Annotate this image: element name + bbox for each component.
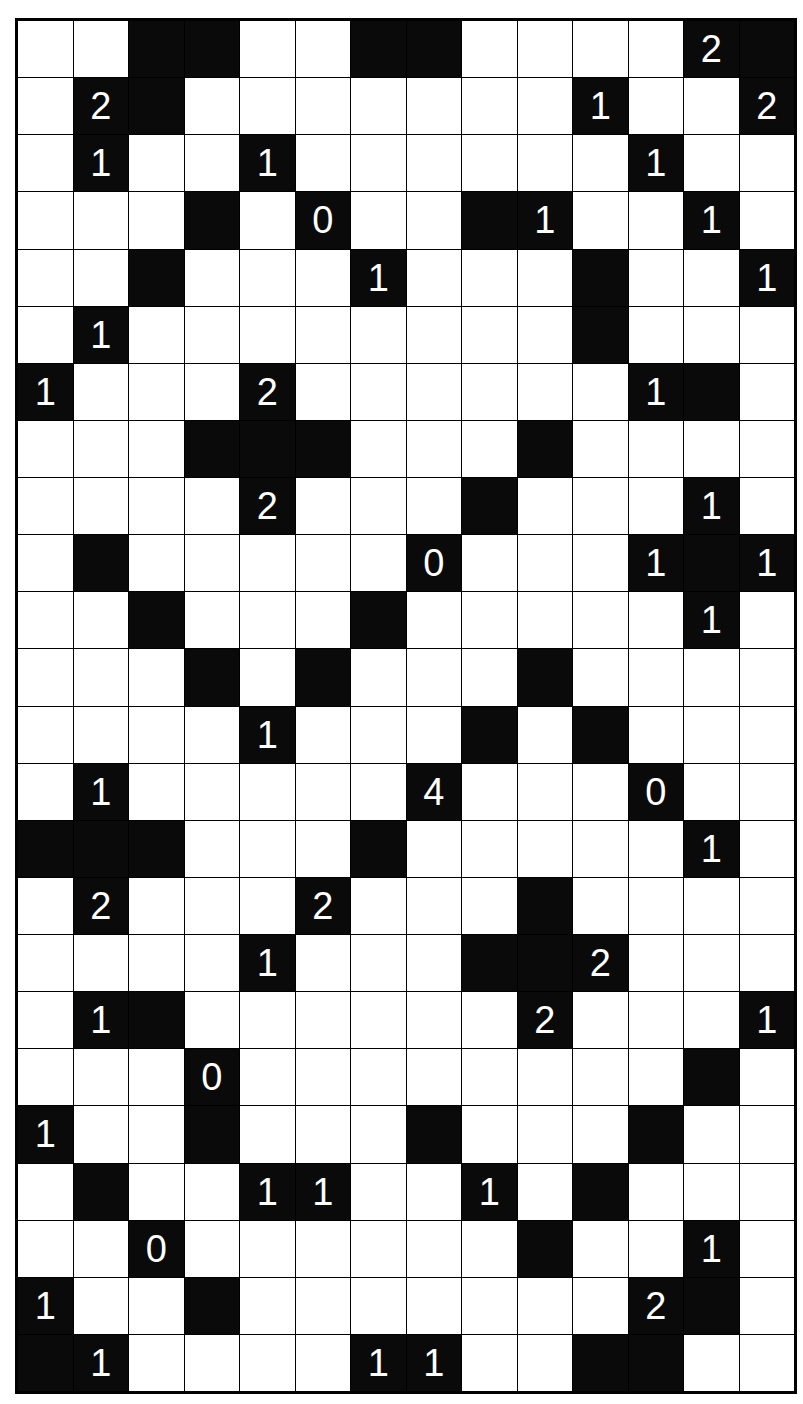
white-cell[interactable]: [18, 421, 73, 477]
white-cell[interactable]: [18, 21, 73, 77]
white-cell[interactable]: [185, 135, 240, 191]
white-cell[interactable]: [129, 707, 184, 763]
white-cell[interactable]: [351, 1221, 406, 1277]
white-cell[interactable]: [185, 307, 240, 363]
white-cell[interactable]: [129, 1278, 184, 1334]
white-cell[interactable]: [740, 935, 795, 991]
white-cell[interactable]: [407, 1221, 462, 1277]
white-cell[interactable]: [462, 592, 517, 648]
white-cell[interactable]: [740, 878, 795, 934]
white-cell[interactable]: [74, 592, 129, 648]
white-cell[interactable]: [684, 1106, 739, 1162]
white-cell[interactable]: [629, 707, 684, 763]
white-cell[interactable]: [240, 21, 295, 77]
white-cell[interactable]: [74, 707, 129, 763]
white-cell[interactable]: [129, 535, 184, 591]
white-cell[interactable]: [462, 535, 517, 591]
white-cell[interactable]: [462, 250, 517, 306]
white-cell[interactable]: [518, 364, 573, 420]
white-cell[interactable]: [629, 1221, 684, 1277]
white-cell[interactable]: [240, 1221, 295, 1277]
white-cell[interactable]: [18, 992, 73, 1048]
white-cell[interactable]: [573, 535, 628, 591]
white-cell[interactable]: [518, 1278, 573, 1334]
white-cell[interactable]: [573, 1221, 628, 1277]
white-cell[interactable]: [684, 649, 739, 705]
white-cell[interactable]: [129, 935, 184, 991]
white-cell[interactable]: [18, 707, 73, 763]
white-cell[interactable]: [240, 192, 295, 248]
white-cell[interactable]: [240, 1335, 295, 1391]
white-cell[interactable]: [740, 821, 795, 877]
white-cell[interactable]: [129, 1106, 184, 1162]
white-cell[interactable]: [518, 307, 573, 363]
white-cell[interactable]: [296, 135, 351, 191]
white-cell[interactable]: [573, 1049, 628, 1105]
white-cell[interactable]: [185, 592, 240, 648]
white-cell[interactable]: [573, 135, 628, 191]
white-cell[interactable]: [129, 1335, 184, 1391]
white-cell[interactable]: [296, 78, 351, 134]
white-cell[interactable]: [684, 878, 739, 934]
white-cell[interactable]: [296, 250, 351, 306]
white-cell[interactable]: [740, 1164, 795, 1220]
white-cell[interactable]: [351, 478, 406, 534]
white-cell[interactable]: [684, 1335, 739, 1391]
white-cell[interactable]: [462, 1335, 517, 1391]
white-cell[interactable]: [74, 1049, 129, 1105]
white-cell[interactable]: [296, 1221, 351, 1277]
white-cell[interactable]: [18, 1221, 73, 1277]
white-cell[interactable]: [407, 78, 462, 134]
white-cell[interactable]: [740, 421, 795, 477]
white-cell[interactable]: [74, 364, 129, 420]
white-cell[interactable]: [18, 878, 73, 934]
white-cell[interactable]: [573, 878, 628, 934]
white-cell[interactable]: [240, 878, 295, 934]
white-cell[interactable]: [740, 364, 795, 420]
white-cell[interactable]: [573, 992, 628, 1048]
white-cell[interactable]: [462, 364, 517, 420]
white-cell[interactable]: [518, 250, 573, 306]
white-cell[interactable]: [351, 1164, 406, 1220]
white-cell[interactable]: [407, 992, 462, 1048]
white-cell[interactable]: [518, 1335, 573, 1391]
white-cell[interactable]: [740, 1335, 795, 1391]
white-cell[interactable]: [74, 649, 129, 705]
white-cell[interactable]: [684, 250, 739, 306]
white-cell[interactable]: [684, 992, 739, 1048]
white-cell[interactable]: [74, 250, 129, 306]
white-cell[interactable]: [185, 935, 240, 991]
white-cell[interactable]: [240, 764, 295, 820]
white-cell[interactable]: [296, 307, 351, 363]
white-cell[interactable]: [129, 192, 184, 248]
white-cell[interactable]: [351, 421, 406, 477]
white-cell[interactable]: [296, 1049, 351, 1105]
white-cell[interactable]: [407, 649, 462, 705]
white-cell[interactable]: [129, 421, 184, 477]
white-cell[interactable]: [407, 364, 462, 420]
white-cell[interactable]: [518, 764, 573, 820]
white-cell[interactable]: [296, 1106, 351, 1162]
white-cell[interactable]: [629, 478, 684, 534]
white-cell[interactable]: [351, 878, 406, 934]
white-cell[interactable]: [740, 1278, 795, 1334]
white-cell[interactable]: [462, 764, 517, 820]
white-cell[interactable]: [518, 821, 573, 877]
white-cell[interactable]: [185, 764, 240, 820]
white-cell[interactable]: [129, 878, 184, 934]
white-cell[interactable]: [573, 421, 628, 477]
white-cell[interactable]: [18, 935, 73, 991]
white-cell[interactable]: [407, 421, 462, 477]
white-cell[interactable]: [351, 1049, 406, 1105]
white-cell[interactable]: [351, 364, 406, 420]
white-cell[interactable]: [629, 592, 684, 648]
white-cell[interactable]: [74, 478, 129, 534]
white-cell[interactable]: [240, 1049, 295, 1105]
white-cell[interactable]: [462, 1049, 517, 1105]
white-cell[interactable]: [240, 992, 295, 1048]
white-cell[interactable]: [18, 592, 73, 648]
white-cell[interactable]: [351, 307, 406, 363]
white-cell[interactable]: [518, 707, 573, 763]
white-cell[interactable]: [573, 21, 628, 77]
white-cell[interactable]: [684, 135, 739, 191]
